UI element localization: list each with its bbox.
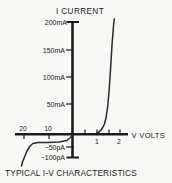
forward-curve bbox=[97, 19, 114, 133]
reverse-curve bbox=[22, 136, 73, 167]
x-label-1: 1 bbox=[95, 138, 99, 145]
y-label-200mA: 200mA bbox=[45, 19, 68, 26]
y-label-150mA: 150mA bbox=[43, 47, 66, 54]
y-label-100mA: 100mA bbox=[43, 74, 66, 81]
iv-characteristics-figure: I CURRENT 200mA 150mA 100mA 50mA −50pA −… bbox=[0, 0, 172, 183]
x-label-20: 20 bbox=[19, 125, 27, 132]
y-label-50mA: 50mA bbox=[47, 101, 66, 108]
y-label-neg100pA: −100pA bbox=[41, 154, 66, 162]
y-label-neg50pA: −50pA bbox=[45, 144, 66, 152]
x-axis-title: V VOLTS bbox=[132, 131, 166, 140]
figure-caption: TYPICAL I-V CHARACTERISTICS bbox=[5, 168, 137, 178]
iv-chart: I CURRENT 200mA 150mA 100mA 50mA −50pA −… bbox=[0, 0, 172, 183]
x-label-10: 10 bbox=[44, 125, 52, 132]
x-label-2: 2 bbox=[117, 138, 121, 145]
y-axis-title: I CURRENT bbox=[56, 7, 104, 16]
